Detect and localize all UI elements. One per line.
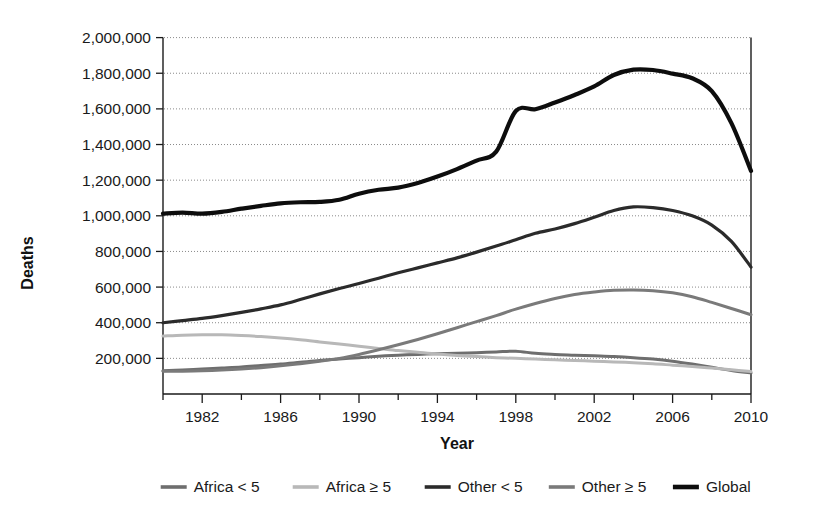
x-tick-label: 2006 [655, 408, 689, 425]
legend-item: Global [673, 478, 751, 495]
chart-legend: Africa < 5Africa ≥ 5Other < 5Other ≥ 5Gl… [161, 478, 751, 495]
y-tick-label: 400,000 [95, 314, 151, 331]
y-axis-title-label: Deaths [19, 236, 36, 289]
legend-label: Other ≥ 5 [582, 478, 647, 495]
y-axis-ticks: 200,000400,000600,000800,0001,000,0001,2… [82, 29, 163, 367]
legend-item: Africa < 5 [161, 478, 260, 495]
x-tick-label: 1998 [499, 408, 533, 425]
deaths-by-year-line-chart: Deaths 200,000400,000600,000800,0001,000… [0, 0, 834, 519]
legend-label: Africa ≥ 5 [326, 478, 391, 495]
legend-item: Other ≥ 5 [549, 478, 647, 495]
legend-label: Global [706, 478, 751, 495]
y-tick-label: 1,000,000 [82, 207, 151, 224]
series-line-global [163, 69, 751, 213]
x-tick-label: 1982 [185, 408, 219, 425]
y-tick-label: 200,000 [95, 350, 151, 367]
x-tick-label: 2002 [577, 408, 611, 425]
legend-item: Africa ≥ 5 [293, 478, 391, 495]
y-tick-label: 2,000,000 [82, 29, 151, 46]
y-axis-title: Deaths [19, 236, 36, 289]
y-tick-label: 1,600,000 [82, 100, 151, 117]
y-tick-label: 600,000 [95, 279, 151, 296]
y-tick-label: 1,200,000 [82, 172, 151, 189]
data-series-group [163, 69, 751, 373]
legend-label: Other < 5 [458, 478, 523, 495]
series-line-other-5 [163, 207, 751, 323]
x-tick-label: 2010 [734, 408, 769, 425]
x-axis-title-label: Year [440, 435, 474, 452]
x-tick-label: 1986 [263, 408, 297, 425]
y-tick-label: 1,400,000 [82, 136, 151, 153]
chart-figure: Deaths 200,000400,000600,000800,0001,000… [0, 0, 834, 519]
legend-label: Africa < 5 [194, 478, 260, 495]
y-tick-label: 1,800,000 [82, 65, 151, 82]
x-tick-label: 1990 [342, 408, 377, 425]
x-axis-ticks: 19821986199019941998200220062010 [163, 394, 769, 425]
y-tick-label: 800,000 [95, 243, 151, 260]
x-tick-label: 1994 [420, 408, 455, 425]
legend-item: Other < 5 [425, 478, 523, 495]
